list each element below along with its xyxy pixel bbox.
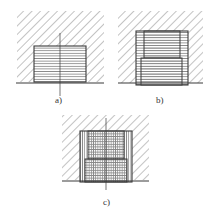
panel-label-b: b) <box>156 95 164 105</box>
panel-label-c: c) <box>103 197 110 207</box>
panel-a <box>16 11 104 96</box>
inner-lower-b <box>141 58 182 85</box>
diagram-canvas <box>0 0 206 210</box>
inner-upper-b <box>144 31 180 58</box>
panel-c <box>62 115 149 190</box>
panel-label-a: a) <box>55 95 62 105</box>
panel-b <box>118 11 203 85</box>
